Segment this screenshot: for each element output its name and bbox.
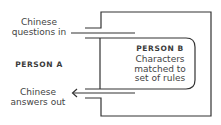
person-b-label: PERSON B [125,44,195,53]
questions-in-label: Chinese questions in [8,17,70,37]
answers-out-label-line-1: Chinese [6,87,70,97]
person-b-description-line-3: set of rules [125,74,195,84]
person-b-description: Characters matched to set of rules [125,55,195,84]
questions-in-label-line-1: Chinese [8,17,70,27]
questions-in-label-line-2: questions in [8,27,70,37]
answers-out-label-line-2: answers out [6,97,70,107]
answers-out-label: Chinese answers out [6,87,70,107]
person-a-label: PERSON A [8,60,70,69]
